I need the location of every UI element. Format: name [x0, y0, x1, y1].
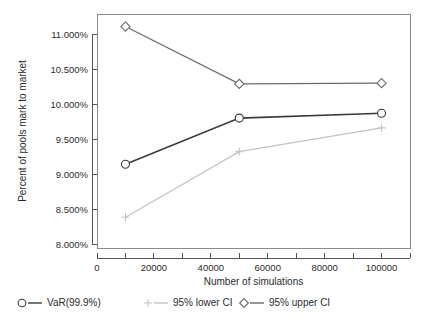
- marker-plus: [144, 299, 152, 307]
- chart-container: 8.000%8.500%9.000%9.500%10.000%10.500%11…: [0, 0, 423, 324]
- legend-label: 95% lower CI: [173, 297, 232, 308]
- series-line: [125, 113, 381, 164]
- marker-diamond: [121, 22, 130, 31]
- marker-plus: [121, 213, 129, 221]
- x-tick-label: 40000: [198, 262, 224, 273]
- x-tick-label: 0: [94, 262, 99, 273]
- x-tick-label: 80000: [311, 262, 337, 273]
- marker-diamond: [377, 79, 386, 88]
- series-line: [125, 128, 381, 217]
- y-tick-label: 8.500%: [56, 204, 89, 215]
- y-tick-label: 8.000%: [56, 239, 89, 250]
- x-axis: 020000400006000080000100000: [94, 253, 410, 273]
- y-tick-label: 9.000%: [56, 169, 89, 180]
- series-3: [121, 22, 386, 88]
- y-axis: 8.000%8.500%9.000%9.500%10.000%10.500%11…: [50, 29, 97, 250]
- series-line: [125, 27, 381, 84]
- x-tick-label: 20000: [141, 262, 167, 273]
- legend-label: VaR(99.9%): [47, 297, 101, 308]
- legend-item-1[interactable]: VaR(99.9%): [18, 297, 101, 308]
- series-layer: [121, 22, 386, 221]
- line-chart: 8.000%8.500%9.000%9.500%10.000%10.500%11…: [0, 0, 423, 324]
- marker-plus: [378, 124, 386, 132]
- marker-diamond: [235, 79, 244, 88]
- y-tick-label: 11.000%: [51, 29, 88, 40]
- marker-diamond: [240, 299, 249, 308]
- x-tick-label: 100000: [366, 262, 398, 273]
- marker-plus: [235, 148, 243, 156]
- series-2: [121, 124, 385, 221]
- marker-circle: [18, 299, 26, 307]
- chart-legend: VaR(99.9%)95% lower CI95% upper CI: [18, 297, 330, 308]
- x-axis-title: Number of simulations: [204, 276, 303, 287]
- series-1: [121, 109, 385, 168]
- legend-item-2[interactable]: 95% lower CI: [144, 297, 232, 308]
- y-tick-label: 10.500%: [50, 64, 88, 75]
- x-tick-label: 60000: [255, 262, 281, 273]
- y-tick-label: 10.000%: [50, 99, 88, 110]
- marker-circle: [235, 114, 243, 122]
- marker-circle: [378, 109, 386, 117]
- marker-circle: [121, 160, 129, 168]
- y-axis-title: Percent of pools mark to market: [17, 60, 28, 202]
- legend-item-3[interactable]: 95% upper CI: [240, 297, 331, 308]
- legend-label: 95% upper CI: [269, 297, 330, 308]
- y-tick-label: 9.500%: [56, 134, 89, 145]
